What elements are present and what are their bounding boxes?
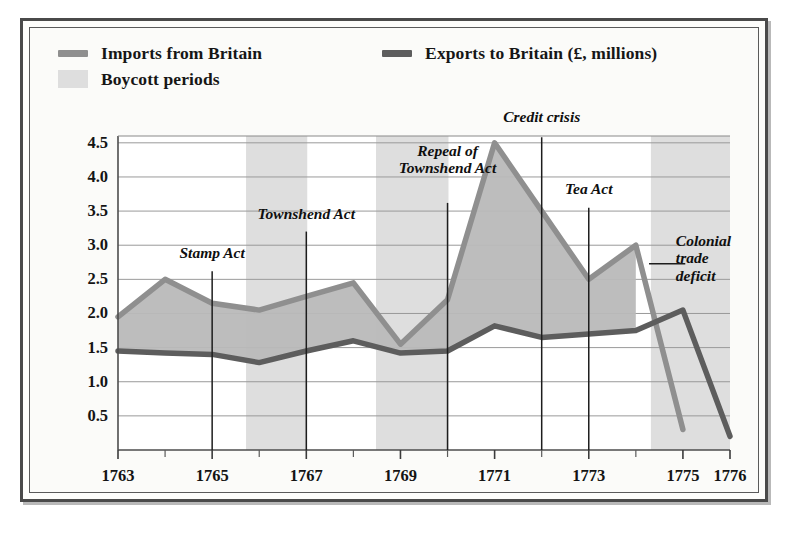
y-axis-tick-label: 0.5 xyxy=(62,406,108,426)
figure-frame-outer: Imports from Britain Exports to Britain … xyxy=(20,18,768,502)
y-axis-tick-label: 2.0 xyxy=(62,303,108,323)
boycott-band-1 xyxy=(376,136,448,450)
chart-figure: Imports from Britain Exports to Britain … xyxy=(30,28,758,492)
x-axis-tick-label: 1773 xyxy=(559,466,619,486)
y-axis-tick-label: 2.5 xyxy=(62,269,108,289)
y-axis-tick-label: 4.0 xyxy=(62,167,108,187)
y-axis-tick-label: 1.0 xyxy=(62,372,108,392)
annotation-credit-crisis: Credit crisis xyxy=(503,108,580,126)
y-axis-tick-label: 4.5 xyxy=(62,133,108,153)
y-axis-tick-label: 3.0 xyxy=(62,235,108,255)
y-axis-tick-label: 1.5 xyxy=(62,338,108,358)
x-axis-tick-label: 1776 xyxy=(700,466,760,486)
figure-frame-inner: Imports from Britain Exports to Britain … xyxy=(29,27,759,493)
x-axis-tick-label: 1767 xyxy=(276,466,336,486)
annotation-colonial-trade-deficit: Colonial trade deficit xyxy=(676,232,731,285)
y-axis-tick-label: 3.5 xyxy=(62,201,108,221)
boycott-band-0 xyxy=(246,136,307,450)
chart-canvas xyxy=(30,28,760,494)
figure-page: Imports from Britain Exports to Britain … xyxy=(0,0,806,534)
x-axis-tick-label: 1763 xyxy=(88,466,148,486)
annotation-tea-act: Tea Act xyxy=(565,180,613,198)
x-axis-tick-label: 1765 xyxy=(182,466,242,486)
annotation-stamp-act: Stamp Act xyxy=(179,244,244,262)
annotation-repeal-of-townshend-act: Repeal of Townshend Act xyxy=(399,142,496,177)
x-axis-tick-label: 1769 xyxy=(370,466,430,486)
x-axis-tick-label: 1771 xyxy=(465,466,525,486)
chart-plot-area: 4.54.03.53.02.52.01.51.00.51763176517671… xyxy=(30,28,760,494)
annotation-townshend-act: Townshend Act xyxy=(258,205,355,223)
